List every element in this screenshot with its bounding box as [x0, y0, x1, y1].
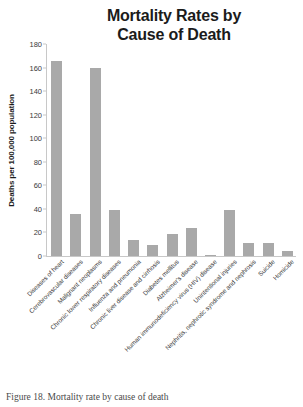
y-axis-tick-mark [43, 256, 46, 257]
y-axis-tick-label: 40 [18, 204, 42, 213]
bar [224, 210, 235, 256]
figure-caption: Figure 18. Mortality rate by cause of de… [6, 392, 169, 402]
bar [128, 240, 139, 256]
chart-title-line-1: Mortality Rates by [50, 6, 298, 25]
bar [147, 245, 158, 256]
figure-caption-text: Figure 18. Mortality rate by cause of de… [6, 392, 169, 402]
y-axis-tick-mark [43, 67, 46, 68]
y-axis-tick-label: 140 [18, 87, 42, 96]
y-axis-tick-label: 160 [18, 63, 42, 72]
y-axis-tick-mark [43, 208, 46, 209]
bar [282, 251, 293, 256]
y-axis-tick-label: 60 [18, 181, 42, 190]
y-axis-tick-mark [43, 138, 46, 139]
x-axis-tick-label-text: Nephritis, nephrotic syndrome and nephro… [162, 258, 257, 353]
chart-title: Mortality Rates by Cause of Death [50, 6, 298, 44]
y-axis-tick-mark [43, 232, 46, 233]
bar [167, 234, 178, 256]
chart-title-line-2: Cause of Death [50, 25, 298, 44]
bar [51, 61, 62, 257]
bar [90, 68, 101, 256]
y-axis-tick-label: 20 [18, 228, 42, 237]
figure-mortality-rates: Mortality Rates by Cause of Death Deaths… [0, 0, 303, 407]
y-axis-tick-label: 100 [18, 134, 42, 143]
y-axis-title-text: Deaths per 100,000 population [7, 94, 16, 207]
y-axis-tick-mark [43, 114, 46, 115]
bar [70, 214, 81, 256]
bar [186, 228, 197, 256]
y-axis-tick-mark [43, 161, 46, 162]
bar [243, 243, 254, 256]
x-axis-labels: Diseases of heartCerebrovascular disease… [46, 258, 296, 378]
y-axis-tick-mark [43, 185, 46, 186]
y-axis-tick-label: 80 [18, 157, 42, 166]
x-axis-line [46, 256, 296, 257]
y-axis-tick-label: 0 [18, 252, 42, 261]
y-axis-tick-mark [43, 91, 46, 92]
plot-area: 180160140120100806040200 [46, 44, 296, 256]
bar [205, 255, 216, 256]
bar [263, 243, 274, 256]
y-axis-tick-label: 180 [18, 40, 42, 49]
y-axis-tick-label: 120 [18, 110, 42, 119]
x-axis-tick-label: Nephritis, nephrotic syndrome and nephro… [162, 258, 257, 353]
bar [109, 210, 120, 256]
y-axis-title: Deaths per 100,000 population [6, 44, 17, 256]
y-axis-tick-mark [43, 44, 46, 45]
